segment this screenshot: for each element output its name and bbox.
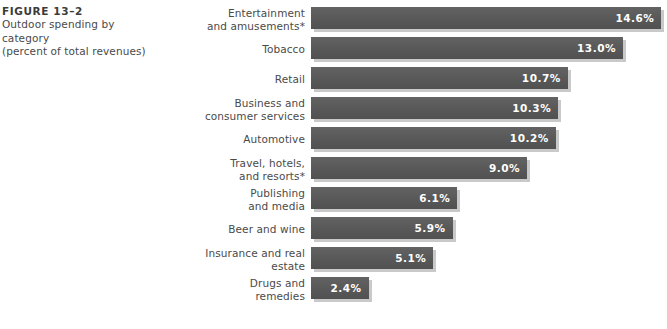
bar-fill: 10.7% (311, 67, 568, 89)
bar: 13.0% (311, 37, 623, 61)
bar: 2.4% (311, 277, 369, 301)
bar: 10.3% (311, 97, 558, 121)
bar-category-label: Tobacco (65, 43, 305, 56)
bar: 10.2% (311, 127, 556, 151)
bar-row: Publishing and media6.1% (0, 184, 667, 214)
bar-fill: 10.3% (311, 97, 558, 119)
bar-value-label: 6.1% (419, 192, 450, 204)
horizontal-bar-chart: Entertainment and amusements*14.6%Tobacc… (0, 0, 667, 329)
bar-category-label: Business and consumer services (65, 97, 305, 122)
bar-value-label: 10.7% (522, 72, 561, 84)
bar-value-label: 13.0% (577, 42, 616, 54)
bar-row: Beer and wine5.9% (0, 214, 667, 244)
bar: 6.1% (311, 187, 457, 211)
bar-value-label: 10.2% (510, 132, 549, 144)
bar-fill: 6.1% (311, 187, 457, 209)
bar: 9.0% (311, 157, 527, 181)
bar-value-label: 5.9% (414, 222, 445, 234)
bar-fill: 9.0% (311, 157, 527, 179)
bar-category-label: Retail (65, 73, 305, 86)
bar-fill: 5.1% (311, 247, 433, 269)
bar-row: Tobacco13.0% (0, 34, 667, 64)
bar-fill: 14.6% (311, 7, 661, 29)
bar-category-label: Beer and wine (65, 223, 305, 236)
bar-value-label: 14.6% (615, 12, 654, 24)
bar-row: Insurance and real estate5.1% (0, 244, 667, 274)
bar-row: Retail10.7% (0, 64, 667, 94)
bar: 5.9% (311, 217, 453, 241)
bar-category-label: Publishing and media (65, 187, 305, 212)
bar-row: Travel, hotels, and resorts*9.0% (0, 154, 667, 184)
bar-category-label: Entertainment and amusements* (65, 7, 305, 32)
bar-row: Automotive10.2% (0, 124, 667, 154)
bar-category-label: Automotive (65, 133, 305, 146)
bar-fill: 2.4% (311, 277, 369, 299)
bar-category-label: Insurance and real estate (65, 247, 305, 272)
bar: 14.6% (311, 7, 661, 31)
bar-fill: 10.2% (311, 127, 556, 149)
bar-category-label: Travel, hotels, and resorts* (65, 157, 305, 182)
bar-row: Business and consumer services10.3% (0, 94, 667, 124)
bar: 5.1% (311, 247, 433, 271)
bar-value-label: 5.1% (395, 252, 426, 264)
bar-value-label: 9.0% (489, 162, 520, 174)
bar-value-label: 2.4% (330, 282, 361, 294)
bar-category-label: Drugs and remedies (65, 277, 305, 302)
bar-value-label: 10.3% (512, 102, 551, 114)
bar-row: Drugs and remedies2.4% (0, 274, 667, 304)
bar: 10.7% (311, 67, 568, 91)
bar-fill: 5.9% (311, 217, 453, 239)
bar-row: Entertainment and amusements*14.6% (0, 4, 667, 34)
bar-fill: 13.0% (311, 37, 623, 59)
